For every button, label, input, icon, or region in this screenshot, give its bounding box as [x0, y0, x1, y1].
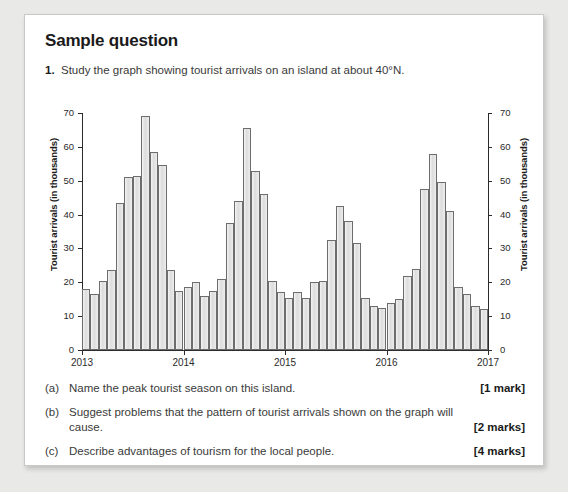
x-tick-label: 2017 — [468, 357, 508, 368]
bar — [378, 308, 386, 350]
bar — [167, 270, 175, 350]
plot-area: 001010202030304040505060607070 201320142… — [82, 113, 488, 350]
question-part: (c) Describe advantages of tourism for t… — [45, 444, 525, 459]
part-text: Suggest problems that the pattern of tou… — [69, 405, 455, 435]
bar — [302, 298, 310, 350]
bar — [277, 292, 285, 350]
x-tick — [184, 350, 185, 355]
y-tick-right — [488, 147, 492, 148]
y-tick-left — [78, 113, 82, 114]
y-tick-right — [488, 215, 492, 216]
bar — [353, 243, 361, 350]
bar — [158, 165, 166, 350]
y-tick-label-right: 0 — [500, 345, 518, 354]
y-tick-label-left: 70 — [56, 108, 74, 117]
part-text: Describe advantages of tourism for the l… — [69, 444, 455, 459]
bar — [107, 270, 115, 350]
x-tick — [387, 350, 388, 355]
bar — [133, 176, 141, 350]
bar — [395, 299, 403, 350]
bar — [184, 287, 192, 350]
bar — [285, 298, 293, 350]
part-marks: [2 marks] — [474, 420, 525, 435]
bar — [209, 291, 217, 350]
bar — [480, 309, 488, 350]
question-part: (a) Name the peak tourist season on this… — [45, 381, 525, 396]
y-tick-left — [78, 215, 82, 216]
bar — [124, 177, 132, 350]
bar — [268, 281, 276, 350]
bar — [234, 201, 242, 350]
bar — [310, 282, 318, 350]
bar — [437, 182, 445, 350]
y-tick-right — [488, 316, 492, 317]
y-tick-left — [78, 282, 82, 283]
y-tick-left — [78, 181, 82, 182]
x-tick-label: 2016 — [367, 357, 407, 368]
bar — [446, 211, 454, 350]
bar — [260, 194, 268, 350]
part-tag: (a) — [45, 381, 67, 396]
y-tick-left — [78, 316, 82, 317]
y-axis-title-left: Tourist arrivals (in thousands) — [48, 105, 59, 305]
y-tick-label-right: 20 — [500, 277, 518, 286]
question-stem: 1.Study the graph showing tourist arriva… — [45, 63, 525, 78]
x-tick — [488, 350, 489, 355]
bar — [387, 303, 395, 350]
bar — [471, 306, 479, 350]
bar — [344, 221, 352, 350]
y-tick-left — [78, 147, 82, 148]
bar — [82, 289, 90, 350]
y-tick-label-left: 50 — [56, 176, 74, 185]
bar — [463, 294, 471, 350]
x-tick-label: 2013 — [62, 357, 102, 368]
bar — [336, 206, 344, 350]
bar — [319, 281, 327, 350]
y-tick-label-right: 50 — [500, 176, 518, 185]
y-tick-label-right: 60 — [500, 142, 518, 151]
y-tick-label-left: 60 — [56, 142, 74, 151]
question-number: 1. — [45, 63, 61, 78]
part-tag: (b) — [45, 405, 67, 420]
bar — [361, 298, 369, 350]
bar — [192, 282, 200, 350]
bar — [243, 128, 251, 350]
bar — [429, 154, 437, 350]
x-tick-label: 2015 — [265, 357, 305, 368]
y-tick-right — [488, 181, 492, 182]
tourist-arrivals-chart: Tourist arrivals (in thousands) Tourist … — [45, 87, 525, 367]
question-text: Study the graph showing tourist arrivals… — [61, 64, 404, 76]
x-tick — [285, 350, 286, 355]
bar — [251, 171, 259, 350]
bar — [226, 223, 234, 350]
bar — [90, 294, 98, 350]
part-text: Name the peak tourist season on this isl… — [69, 381, 455, 396]
x-tick-label: 2014 — [164, 357, 204, 368]
bar — [420, 189, 428, 350]
bar — [293, 292, 301, 350]
bar — [454, 287, 462, 350]
part-marks: [1 mark] — [480, 381, 525, 396]
bar — [412, 269, 420, 350]
bar — [99, 281, 107, 350]
page-title: Sample question — [45, 31, 178, 51]
question-parts: (a) Name the peak tourist season on this… — [45, 381, 525, 468]
y-axis-title-right: Tourist arrivals (in thousands) — [518, 105, 529, 305]
y-tick-label-left: 40 — [56, 210, 74, 219]
bar — [370, 306, 378, 350]
bar — [175, 291, 183, 350]
y-tick-label-right: 30 — [500, 243, 518, 252]
y-tick-label-right: 70 — [500, 108, 518, 117]
y-tick-label-left: 20 — [56, 277, 74, 286]
question-part: (b) Suggest problems that the pattern of… — [45, 405, 525, 435]
part-marks: [4 marks] — [474, 444, 525, 459]
bar — [141, 116, 149, 350]
y-tick-left — [78, 248, 82, 249]
y-tick-right — [488, 113, 492, 114]
y-tick-label-left: 10 — [56, 311, 74, 320]
bar — [116, 203, 124, 350]
bar — [150, 152, 158, 350]
x-tick — [82, 350, 83, 355]
bar — [403, 276, 411, 350]
bar — [217, 279, 225, 350]
